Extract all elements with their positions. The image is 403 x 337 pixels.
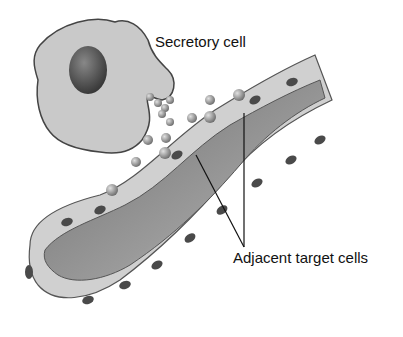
secretory-cell <box>34 19 174 153</box>
paracrine-diagram: Secretory cell Adjacent target cells <box>0 0 403 337</box>
target-cells-label: Adjacent target cells <box>233 249 368 266</box>
nucleus-icon <box>69 46 107 94</box>
secretory-cell-label: Secretory cell <box>155 33 246 50</box>
diagram-artwork <box>0 0 403 337</box>
